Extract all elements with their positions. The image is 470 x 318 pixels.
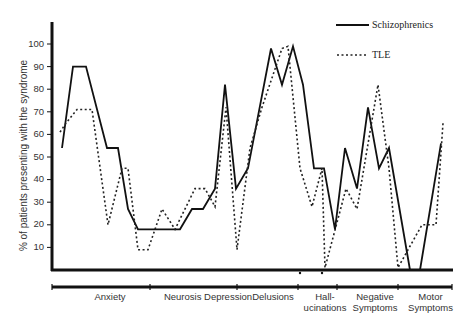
y-tick-label: 60 (22, 128, 44, 139)
category-label-motor-symptoms: Motor Symptoms (403, 291, 458, 313)
y-tick-label: 10 (22, 241, 44, 252)
y-tick-label: 20 (22, 218, 44, 229)
legend-label-schizophrenics: Schizophrenics (372, 19, 433, 30)
y-tick-label: 50 (22, 151, 44, 162)
category-label-negative-symptoms: Negative Symptoms (345, 291, 405, 313)
y-tick-label: 100 (22, 38, 44, 49)
series-schizophrenics-line (62, 46, 441, 270)
legend-label-tle: TLE (372, 49, 390, 60)
y-tick-label: 90 (22, 61, 44, 72)
y-tick-label: 70 (22, 106, 44, 117)
y-tick-label: 30 (22, 196, 44, 207)
line-chart: % of patients presenting with the syndro… (0, 0, 470, 318)
y-tick-label: 80 (22, 83, 44, 94)
y-tick-label: 40 (22, 173, 44, 184)
category-label-delusions: Delusions (243, 291, 303, 302)
chart-plot-area (0, 0, 470, 318)
marker-dot (299, 272, 301, 274)
category-label-hallucinations: Hall- ucinations (300, 291, 350, 313)
category-label-anxiety: Anxiety (80, 291, 140, 302)
marker-dot (321, 272, 323, 274)
